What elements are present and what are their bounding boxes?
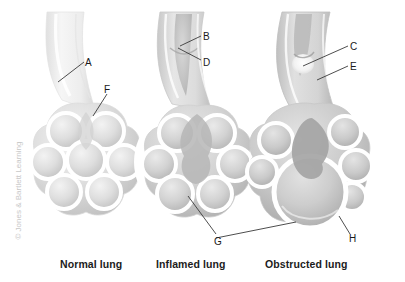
obstructed-alveolus (259, 123, 293, 157)
label-b: B (203, 31, 210, 42)
label-h: H (349, 233, 356, 244)
obstructed-alveolus (247, 157, 277, 187)
caption-obstructed-lung: Obstructed lung (265, 258, 348, 270)
normal-alveolus (47, 175, 81, 209)
label-g: G (214, 236, 222, 247)
label-a: A (85, 57, 92, 68)
label-c: C (350, 41, 357, 52)
label-f: F (104, 84, 110, 95)
caption-normal-lung: Normal lung (60, 258, 122, 270)
copyright-notice: © Jones & Bartlett Learning (14, 120, 23, 240)
obstructed-alveoli-cluster (247, 103, 372, 228)
lung-illustration (0, 0, 405, 282)
inflamed-alveolus (198, 177, 232, 211)
lung-comparison-figure: A F B D C E G H Normal lung Inflamed lun… (0, 0, 405, 282)
caption-inflamed-lung: Inflamed lung (156, 258, 226, 270)
obstructed-alveolus (329, 116, 361, 148)
normal-alveolus (87, 175, 121, 209)
label-e: E (350, 61, 357, 72)
inflamed-alveolus (157, 176, 193, 212)
label-d: D (203, 57, 210, 68)
